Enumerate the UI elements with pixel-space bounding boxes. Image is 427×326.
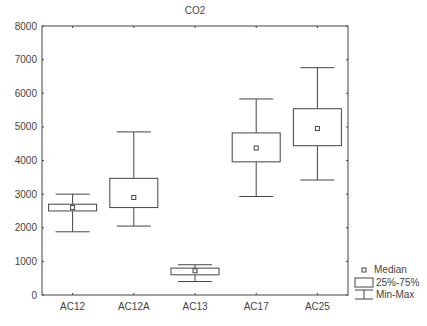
x-tick-label: AC25: [305, 301, 330, 312]
chart-title: CO2: [185, 5, 206, 16]
y-tick-label: 6000: [15, 88, 38, 99]
median-marker-icon: [193, 269, 197, 273]
chart-legend: Median 25%-75% Min-Max: [355, 264, 419, 300]
box-ac25: [293, 68, 341, 180]
x-tick-label: AC12: [60, 301, 85, 312]
box-series: [49, 68, 342, 282]
median-marker-icon: [254, 146, 258, 150]
y-tick-label: 8000: [15, 21, 38, 32]
legend-median-icon: [362, 268, 366, 272]
legend-box-label: 25%-75%: [376, 277, 419, 288]
plot-frame: [42, 26, 348, 295]
x-tick-label: AC12A: [118, 301, 150, 312]
box-ac17: [232, 99, 280, 197]
y-tick-label: 7000: [15, 54, 38, 65]
x-tick-label: AC17: [244, 301, 269, 312]
y-tick-label: 1000: [15, 256, 38, 267]
y-tick-label: 0: [31, 290, 37, 301]
box-ac13: [171, 265, 219, 282]
box-ac12a: [110, 132, 158, 226]
y-tick-label: 2000: [15, 222, 38, 233]
box-plot-chart: CO2 010002000300040005000600070008000AC1…: [0, 0, 427, 326]
median-marker-icon: [132, 195, 136, 199]
legend-whisker-label: Min-Max: [376, 289, 414, 300]
box-ac12: [49, 194, 97, 232]
y-tick-label: 4000: [15, 155, 38, 166]
y-tick-label: 3000: [15, 189, 38, 200]
median-marker-icon: [71, 206, 75, 210]
y-tick-label: 5000: [15, 121, 38, 132]
legend-median-label: Median: [374, 264, 407, 275]
legend-box-icon: [355, 278, 373, 287]
iqr-box: [110, 178, 158, 207]
x-tick-label: AC13: [182, 301, 207, 312]
median-marker-icon: [315, 127, 319, 131]
